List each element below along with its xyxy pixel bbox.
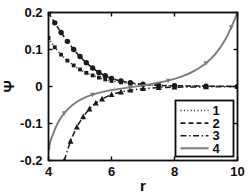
- ytick-label: 0.2: [24, 5, 42, 20]
- xtick-label: 10: [230, 164, 244, 179]
- data-point-marker: [77, 54, 82, 59]
- legend: 1234: [176, 101, 234, 157]
- data-point-marker: [65, 39, 70, 44]
- data-point-marker: [52, 20, 57, 25]
- ytick-label: -0.1: [20, 116, 42, 131]
- data-point-marker: [109, 76, 114, 81]
- chart-canvas: 46810-0.2-0.100.10.2rΨ1234: [0, 0, 252, 196]
- xtick-label: 6: [108, 164, 115, 179]
- data-point-marker: [72, 64, 76, 68]
- data-point-marker: [97, 76, 101, 80]
- x-axis-title: r: [140, 177, 146, 194]
- data-point-marker: [103, 73, 108, 78]
- ytick-label: -0.2: [20, 153, 42, 168]
- ytick-label: 0.1: [24, 42, 42, 57]
- legend-label: 4: [213, 141, 221, 156]
- y-axis-title: Ψ: [0, 80, 17, 92]
- data-point-marker: [58, 30, 63, 35]
- data-point-marker: [59, 53, 63, 57]
- xtick-label: 4: [45, 164, 53, 179]
- data-point-marker: [118, 78, 123, 83]
- figure-container: 46810-0.2-0.100.10.2rΨ1234: [0, 0, 252, 196]
- data-point-marker: [84, 71, 88, 75]
- ytick-label: 0: [35, 79, 42, 94]
- data-point-marker: [53, 45, 57, 49]
- data-point-marker: [96, 70, 101, 75]
- data-point-marker: [84, 60, 89, 65]
- xtick-label: 8: [171, 164, 178, 179]
- data-point-marker: [66, 59, 70, 63]
- data-point-marker: [71, 47, 76, 52]
- data-point-marker: [90, 65, 95, 70]
- data-point-marker: [128, 80, 133, 85]
- data-point-marker: [91, 74, 95, 78]
- data-point-marker: [78, 68, 82, 72]
